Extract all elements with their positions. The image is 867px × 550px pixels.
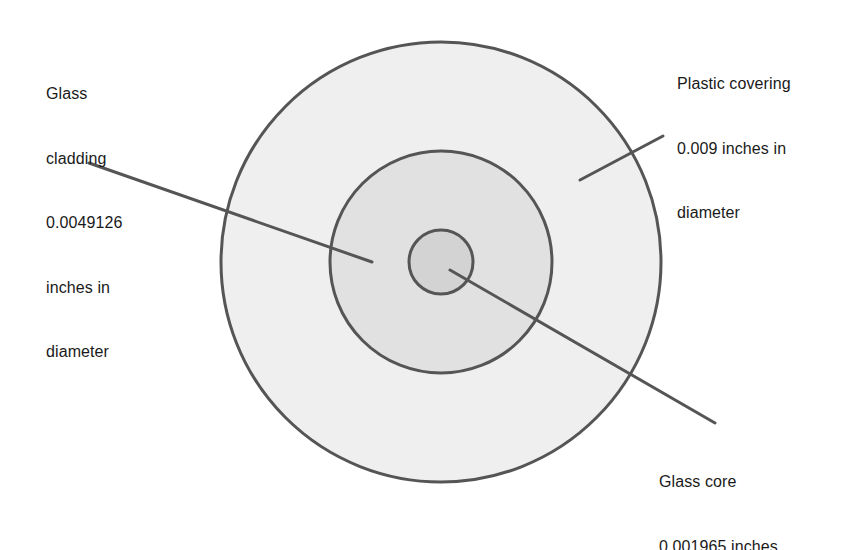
label-line: cladding bbox=[46, 148, 123, 170]
label-line: diameter bbox=[677, 202, 791, 224]
label-line: 0.0049126 bbox=[46, 212, 123, 234]
label-line: Glass core bbox=[659, 471, 778, 493]
label-line: 0.009 inches in bbox=[677, 138, 791, 160]
glass-core-circle bbox=[409, 230, 473, 294]
plastic-covering-label: Plastic covering 0.009 inches in diamete… bbox=[677, 30, 791, 245]
label-line: Glass bbox=[46, 83, 123, 105]
label-line: Plastic covering bbox=[677, 73, 791, 95]
glass-cladding-label: Glass cladding 0.0049126 inches in diame… bbox=[46, 40, 123, 384]
label-line: diameter bbox=[46, 341, 123, 363]
label-line: inches in bbox=[46, 277, 123, 299]
label-line: 0.001965 inches bbox=[659, 536, 778, 550]
glass-core-label: Glass core 0.001965 inches in diameter bbox=[659, 428, 778, 550]
